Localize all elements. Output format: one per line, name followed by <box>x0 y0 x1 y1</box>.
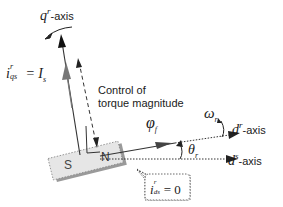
torque-control-arrow <box>79 62 96 143</box>
magnet-south-label: S <box>64 158 72 172</box>
rotor-magnet <box>48 140 127 182</box>
iqs-equation-label: irqs = Is <box>6 64 46 84</box>
control-torque-label: Control of torque magnitude <box>98 84 184 110</box>
ids-equation-label: irds= 0 <box>150 180 181 198</box>
phi-f-label: φf <box>146 114 157 134</box>
magnet-north-label: N <box>101 150 110 164</box>
theta-r-label: θr <box>188 140 198 160</box>
omega-r-label: ωr <box>204 104 218 124</box>
q-axis-label: qr-axis <box>40 6 74 24</box>
dr-axis-label: dr-axis <box>232 120 266 138</box>
omega-rotation-arc <box>221 121 224 137</box>
dr-axis-line <box>175 134 236 143</box>
ds-axis-label: ds-axis <box>228 151 262 169</box>
